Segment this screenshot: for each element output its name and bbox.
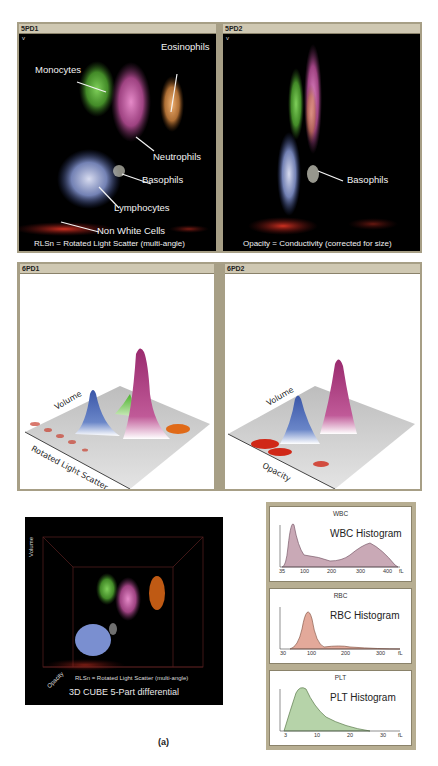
surface-panel-6pd1: 6PD1 Volume Rotated Light Scatter: [20, 264, 214, 489]
tick: 30: [380, 732, 386, 738]
panel-caption: Opacity = Conductivity (corrected for si…: [243, 239, 392, 248]
tick: 100: [307, 650, 316, 656]
scatter-plot: v Eosinoph: [19, 34, 216, 251]
plt-histogram: PLT PLT Histogram 3 10 20 30 fL: [269, 670, 412, 746]
scatter-panel-5pd1: 5PD1 v: [19, 24, 216, 251]
tick: 400: [383, 568, 392, 574]
panel-title: 6PD1: [20, 264, 214, 274]
surface-plot: Volume Opacity: [225, 274, 420, 489]
surface-graphic: [225, 274, 420, 489]
histogram-name: PLT Histogram: [330, 692, 396, 703]
tick: fL: [398, 732, 403, 738]
label-eosinophils: Eosinophils: [161, 41, 210, 52]
rbc-histogram: RBC RBC Histogram 30 100 200 300 fL: [269, 588, 412, 664]
label-basophils: Basophils: [142, 174, 183, 185]
panel-title: 6PD2: [225, 264, 420, 274]
scatter-panel-5pd2: 5PD2 v Basophils Opacity = Conductivity …: [223, 24, 420, 251]
label-basophils: Basophils: [347, 174, 388, 185]
histogram-stack: WBC WBC Histogram 35 100 200 300 400 fL …: [266, 502, 416, 750]
histogram-name: RBC Histogram: [330, 610, 399, 621]
cube-plot: Volume Opacity RLSn = Rotated Light Scat…: [25, 517, 223, 705]
tick: fL: [399, 568, 404, 574]
tick: 3: [284, 732, 287, 738]
tick: 10: [314, 732, 320, 738]
wbc-histogram: WBC WBC Histogram 35 100 200 300 400 fL: [269, 506, 412, 582]
scatter-plot: v Basophils Opacity = Conductivity (corr…: [223, 34, 420, 251]
label-non-white-cells: Non White Cells: [97, 225, 165, 236]
tick: 200: [341, 650, 350, 656]
figure-label: (a): [158, 737, 169, 747]
tick: 35: [279, 568, 285, 574]
tick: 200: [327, 568, 336, 574]
tick: 300: [376, 650, 385, 656]
histogram-curve: [270, 671, 411, 745]
cube-title: 3D CUBE 5-Part differential: [25, 687, 223, 697]
axis-caption: RLSn = Rotated Light Scatter (multi-angl…: [75, 675, 188, 681]
label-monocytes: Monocytes: [35, 64, 81, 75]
panel-title: 5PD1: [19, 24, 216, 34]
scatter-clusters: [223, 34, 420, 251]
surface-plot: Volume Rotated Light Scatter: [20, 274, 214, 489]
tick: 300: [356, 568, 365, 574]
tick: fL: [398, 650, 403, 656]
label-neutrophils: Neutrophils: [153, 151, 201, 162]
tick: 100: [300, 568, 309, 574]
label-lymphocytes: Lymphocytes: [114, 202, 170, 213]
surface-panel-6pd2: 6PD2 Volume Opacity: [225, 264, 420, 489]
panel-caption: RLSn = Rotated Light Scatter (multi-angl…: [34, 239, 185, 248]
tick: 20: [347, 732, 353, 738]
panel-title: 5PD2: [223, 24, 420, 34]
histogram-name: WBC Histogram: [330, 528, 402, 539]
axis-label-volume: Volume: [28, 537, 34, 557]
tick: 30: [280, 650, 286, 656]
